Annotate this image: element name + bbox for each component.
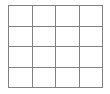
grid-cell-r2c3[interactable] <box>56 26 80 47</box>
table-row <box>9 47 103 68</box>
grid-cell-r2c4[interactable] <box>79 26 103 47</box>
grid-cell-r3c3[interactable] <box>56 47 80 68</box>
figure-canvas <box>0 0 110 94</box>
grid-cell-r1c3[interactable] <box>56 6 80 27</box>
grid-cell-r4c4[interactable] <box>79 67 103 88</box>
grid-cell-r4c1[interactable] <box>9 67 33 88</box>
grid-cell-r3c1[interactable] <box>9 47 33 68</box>
table-row <box>9 6 103 27</box>
grid-cell-r4c3[interactable] <box>56 67 80 88</box>
grid-cell-r4c2[interactable] <box>32 67 56 88</box>
grid-cell-r2c2[interactable] <box>32 26 56 47</box>
grid-cell-r3c2[interactable] <box>32 47 56 68</box>
grid-cell-r1c2[interactable] <box>32 6 56 27</box>
grid-cell-r2c1[interactable] <box>9 26 33 47</box>
grid-cell-r1c4[interactable] <box>79 6 103 27</box>
grid-cell-r3c4[interactable] <box>79 47 103 68</box>
table-row <box>9 26 103 47</box>
table-row <box>9 67 103 88</box>
grid-body <box>9 6 103 88</box>
grid-table <box>8 5 103 88</box>
grid-cell-r1c1[interactable] <box>9 6 33 27</box>
